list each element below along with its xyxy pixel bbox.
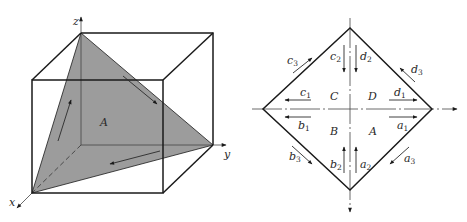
- label-c2: c2: [330, 50, 341, 64]
- z-axis-label: z: [72, 15, 79, 28]
- label-d1: d1: [394, 86, 406, 100]
- quadrant-b-label: B: [329, 125, 338, 138]
- label-b1: b1: [298, 119, 310, 133]
- diamond-figure: C D B A c1 c2 c3 d1 d2 d3 b1 b2 b3 a1 a2…: [252, 18, 457, 212]
- quadrant-c-label: C: [330, 90, 339, 103]
- x-axis-line: [17, 193, 32, 208]
- cube-edge-tr: [163, 33, 213, 80]
- diagram-canvas: z y x A C D B A c1 c2 c3 d1 d2 d3 b1: [0, 0, 467, 222]
- shaded-triangle-plane: [32, 33, 213, 193]
- label-a3: a3: [404, 152, 416, 166]
- quadrant-a-label: A: [368, 125, 377, 138]
- label-a1: a1: [397, 119, 408, 133]
- y-axis-label: y: [223, 148, 231, 161]
- x-axis-label: x: [9, 196, 16, 209]
- cube-figure: z y x A: [9, 15, 231, 209]
- quadrant-d-label: D: [367, 90, 377, 103]
- label-d3: d3: [411, 63, 423, 77]
- label-b2: b2: [330, 158, 342, 172]
- label-c1: c1: [300, 86, 311, 100]
- label-c3: c3: [287, 54, 298, 68]
- label-d2: d2: [360, 50, 372, 64]
- label-a2: a2: [360, 158, 372, 172]
- region-a-label: A: [99, 116, 108, 129]
